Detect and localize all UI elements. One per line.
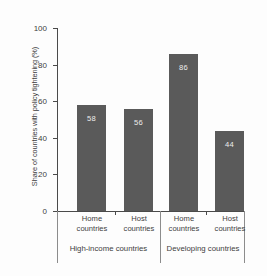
bar-value-label: 44 <box>215 140 244 149</box>
y-tick-80: 80 <box>53 65 57 66</box>
group-label-developing: Developing countries <box>161 244 245 253</box>
category-label-high-income-host: Host countries <box>114 214 164 233</box>
category-label-line1: Host <box>205 214 255 224</box>
bar-high-income-home[interactable]: 58 <box>77 105 106 211</box>
y-tick-label-0: 0 <box>43 207 47 216</box>
category-label-line1: Home <box>67 214 117 224</box>
y-tick-label-40: 40 <box>38 133 47 142</box>
bar-high-income-host[interactable]: 56 <box>124 109 153 212</box>
category-label-developing-home: Home countries <box>159 214 209 233</box>
y-axis-line <box>57 28 58 211</box>
y-tick-20: 20 <box>53 174 57 175</box>
bar-value-label: 58 <box>77 114 106 123</box>
category-label-line2: countries <box>159 224 209 234</box>
bar-value-label: 56 <box>124 118 153 127</box>
y-tick-100: 100 <box>53 28 57 29</box>
category-label-line2: countries <box>205 224 255 234</box>
y-tick-60: 60 <box>53 101 57 102</box>
group-divider-left <box>57 211 58 263</box>
group-label-high-income: High-income countries <box>57 244 160 253</box>
y-tick-label-20: 20 <box>38 170 47 179</box>
y-tick-label-80: 80 <box>38 60 47 69</box>
bar-developing-host[interactable]: 44 <box>215 131 244 212</box>
category-label-developing-host: Host countries <box>205 214 255 233</box>
bar-value-label: 86 <box>169 63 198 72</box>
y-axis-title: Share of countries with policy tightenin… <box>30 22 39 212</box>
category-label-line1: Host <box>114 214 164 224</box>
bar-chart-figure: Share of countries with policy tightenin… <box>0 0 267 276</box>
category-label-line1: Home <box>159 214 209 224</box>
category-label-line2: countries <box>114 224 164 234</box>
plot-area: 0 20 40 60 80 100 58 56 86 44 <box>57 28 245 211</box>
category-label-high-income-home: Home countries <box>67 214 117 233</box>
y-tick-label-100: 100 <box>34 24 47 33</box>
bar-developing-home[interactable]: 86 <box>169 54 198 211</box>
y-tick-40: 40 <box>53 138 57 139</box>
y-tick-label-60: 60 <box>38 97 47 106</box>
category-label-band: Home countries Host countries Home count… <box>57 211 245 263</box>
category-label-line2: countries <box>67 224 117 234</box>
